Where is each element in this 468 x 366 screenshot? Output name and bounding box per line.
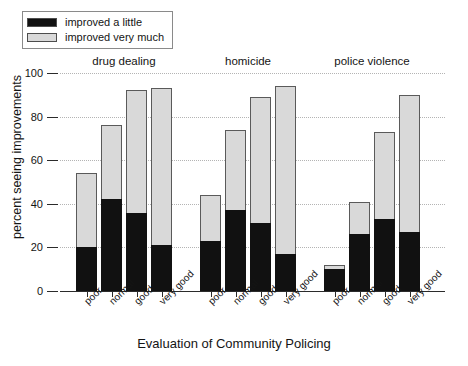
y-axis-title: percent seeing improvements [10,42,24,272]
bar-police-violence-normal [349,202,370,291]
plot-area: 020406080100 [60,73,445,291]
bar-segment-improved-a-little [101,199,122,291]
chart-legend: improved a little improved very much [22,11,173,49]
legend-swatch-improved-a-little [27,18,57,27]
y-axis-tick-100: 100 [47,73,58,74]
bar-segment-improved-a-little [200,241,221,291]
chart-figure: improved a little improved very much 020… [0,0,468,366]
bar-homicide-good [250,97,271,291]
y-axis-tick-label-20: 20 [31,241,43,253]
bar-segment-improved-a-little [76,247,97,291]
bar-drug-dealing-good [126,90,147,291]
bar-drug-dealing-very-good [151,88,172,291]
legend-item-improved-a-little: improved a little [27,15,164,30]
y-axis-tick-label-60: 60 [31,154,43,166]
y-axis-tick-label-100: 100 [25,67,43,79]
bar-segment-improved-a-little [151,245,172,291]
y-axis-tick-label-80: 80 [31,111,43,123]
legend-item-improved-very-much: improved very much [27,30,164,45]
legend-label-improved-very-much: improved very much [65,32,164,43]
bar-homicide-very-good [275,86,296,291]
y-axis-tick-20: 20 [47,247,58,248]
legend-swatch-improved-very-much [27,33,57,42]
gridline-y-100 [60,73,445,74]
bar-segment-improved-a-little [349,234,370,291]
bar-segment-improved-a-little [225,210,246,291]
bar-homicide-poor [200,195,221,291]
bar-homicide-normal [225,130,246,291]
y-axis-tick-60: 60 [47,160,58,161]
group-title-police-violence: police violence [331,55,412,67]
group-title-homicide: homicide [222,55,274,67]
y-axis-tick-0: 0 [47,291,58,292]
y-axis-tick-label-0: 0 [37,285,43,297]
y-axis-tick-40: 40 [47,204,58,205]
x-axis-title: Evaluation of Community Policing [0,336,468,351]
y-axis-tick-label-40: 40 [31,198,43,210]
bar-police-violence-very-good [399,95,420,291]
bar-drug-dealing-normal [101,125,122,291]
bar-drug-dealing-poor [76,173,97,291]
y-axis-tick-80: 80 [47,117,58,118]
bar-segment-improved-a-little [399,232,420,291]
legend-label-improved-a-little: improved a little [65,17,142,28]
group-title-drug-dealing: drug dealing [89,55,158,67]
bar-police-violence-good [374,132,395,291]
